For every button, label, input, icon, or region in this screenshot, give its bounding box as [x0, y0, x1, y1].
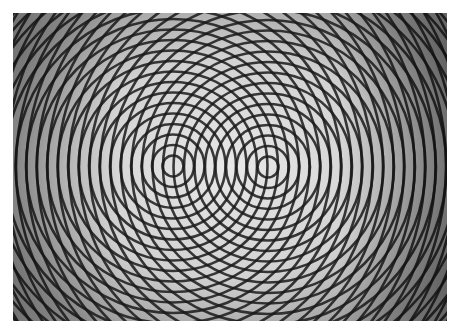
edge-shading: [13, 13, 447, 321]
interference-pattern-photo: [13, 13, 447, 321]
concentric-rings-graphic: [13, 13, 447, 321]
